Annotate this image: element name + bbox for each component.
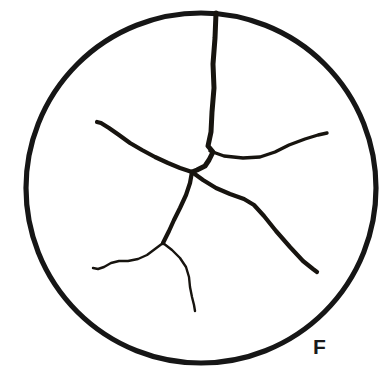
panel-label-f: F: [313, 336, 326, 357]
crack-lower-left-branch: [163, 172, 192, 243]
figure-panel: F: [0, 0, 392, 380]
crack-fork-right-tail: [163, 243, 195, 311]
crack-left-branch: [97, 122, 192, 172]
crack-fork-left-tail: [93, 243, 163, 269]
crack-right-branch: [210, 133, 327, 158]
crack-pattern-diagram: [0, 0, 392, 380]
crack-vertical: [192, 13, 216, 172]
crack-lower-right-branch: [192, 172, 317, 272]
specimen-outline-circle: [26, 13, 376, 363]
